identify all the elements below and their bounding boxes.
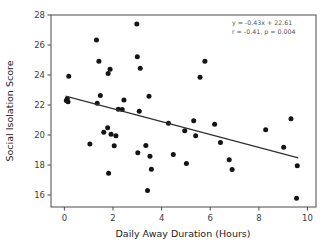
scatter-point (182, 128, 187, 133)
scatter-point (147, 154, 152, 159)
x-tick-label: 4 (159, 213, 164, 223)
regression-line (66, 96, 299, 158)
scatter-point (145, 188, 150, 193)
y-tick-label: 16 (34, 190, 45, 200)
y-axis-title: Social Isolation Score (4, 60, 15, 161)
x-tick-label: 0 (62, 213, 67, 223)
scatter-point (112, 143, 117, 148)
x-tick-label: 8 (256, 213, 261, 223)
scatter-point (96, 59, 101, 64)
scatter-point (109, 132, 114, 137)
scatter-point (143, 143, 148, 148)
scatter-point (113, 133, 118, 138)
scatter-point (212, 122, 217, 127)
scatter-point (98, 93, 103, 98)
y-tick-label: 24 (34, 70, 45, 80)
scatter-point (230, 167, 235, 172)
y-tick-label: 18 (34, 160, 45, 170)
correlation-stats-annotation: r = -0.41, p = 0.004 (232, 28, 295, 36)
scatter-point (281, 145, 286, 150)
scatter-point (202, 59, 207, 64)
scatter-point (66, 99, 71, 104)
x-tick-label: 10 (302, 213, 313, 223)
x-tick-label: 2 (110, 213, 115, 223)
scatter-point (121, 98, 126, 103)
y-tick-label: 22 (34, 100, 45, 110)
scatter-point (135, 150, 140, 155)
scatter-point (294, 196, 299, 201)
y-tick-label: 26 (34, 40, 45, 50)
scatter-point (146, 94, 151, 99)
data-points (64, 22, 300, 201)
scatter-point (87, 142, 92, 147)
y-axis-ticks: 16182022242628 (34, 10, 51, 200)
scatter-point (137, 109, 142, 114)
scatter-point (191, 118, 196, 123)
scatter-point (138, 66, 143, 71)
axes-frame (51, 15, 316, 207)
regression-fit-line (66, 96, 299, 158)
scatter-point (149, 167, 154, 172)
x-tick-label: 6 (208, 213, 213, 223)
scatter-point (263, 127, 268, 132)
scatter-point (184, 161, 189, 166)
regression-equation-annotation: y = -0.43x + 22.61 (232, 19, 292, 27)
scatter-point (171, 152, 176, 157)
chart-canvas: 0246810 16182022242628 Daily Away Durati… (0, 0, 332, 247)
y-tick-label: 28 (34, 10, 45, 20)
scatter-point (105, 125, 110, 130)
scatter-point (66, 74, 71, 79)
scatter-point (101, 130, 106, 135)
scatter-point (108, 67, 113, 72)
scatter-point (193, 133, 198, 138)
scatter-point (134, 22, 139, 27)
y-tick-label: 20 (34, 130, 45, 140)
scatter-point (218, 140, 223, 145)
scatter-point (288, 116, 293, 121)
x-axis-title: Daily Away Duration (Hours) (116, 228, 251, 239)
scatter-point (94, 38, 99, 43)
scatter-point (135, 54, 140, 59)
scatter-point (198, 75, 203, 80)
scatter-point (295, 163, 300, 168)
scatter-point (227, 157, 232, 162)
scatter-plot-figure: 0246810 16182022242628 Daily Away Durati… (0, 0, 332, 247)
x-axis-ticks: 0246810 (62, 207, 313, 223)
scatter-point (106, 171, 111, 176)
